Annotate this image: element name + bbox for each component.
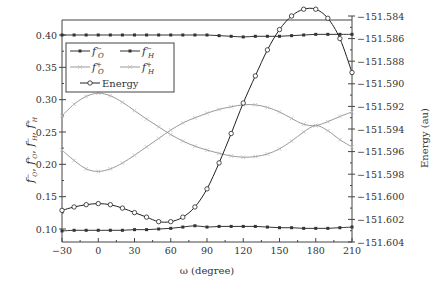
square-marker xyxy=(85,229,88,232)
y-right-tick-label: −151.586 xyxy=(357,33,404,44)
x-marker xyxy=(326,129,330,133)
x-marker xyxy=(181,139,185,143)
circle-marker xyxy=(229,131,233,135)
circle-marker xyxy=(132,210,136,214)
x-marker xyxy=(169,128,173,132)
square-marker xyxy=(326,227,329,230)
left-y-axis-label-text: f−O, f+O, f−H, f+H xyxy=(24,116,38,184)
y-left-tick-label: 0.30 xyxy=(36,94,57,105)
circle-marker xyxy=(205,187,209,191)
circle-marker xyxy=(108,203,112,207)
y-right-tick-label: −151.584 xyxy=(357,11,404,22)
square-marker xyxy=(169,34,172,37)
square-marker xyxy=(133,228,136,231)
circle-marker xyxy=(314,7,318,11)
square-marker xyxy=(302,34,305,37)
x-marker xyxy=(157,137,161,141)
square-marker xyxy=(61,229,64,232)
square-marker xyxy=(73,34,76,37)
square-marker xyxy=(218,225,221,228)
circle-marker xyxy=(241,101,245,105)
circle-marker xyxy=(84,203,88,207)
square-marker xyxy=(121,34,124,37)
square-marker xyxy=(242,35,245,38)
x-tick-label: −30 xyxy=(52,245,72,256)
circle-marker xyxy=(277,27,281,31)
legend-label: Energy xyxy=(102,78,139,89)
square-marker xyxy=(351,226,354,229)
circle-marker xyxy=(326,16,330,20)
square-marker xyxy=(230,225,233,228)
square-marker xyxy=(254,225,257,228)
circle-marker xyxy=(217,161,221,165)
square-marker xyxy=(61,34,64,37)
x-marker xyxy=(290,139,294,143)
legend: f−Of−Hf+Of+HEnergy xyxy=(66,43,174,92)
circle-marker xyxy=(181,215,185,219)
square-marker xyxy=(145,34,148,37)
y-left-tick-label: 0.10 xyxy=(36,224,57,235)
y-right-tick-label: −151.602 xyxy=(357,214,404,225)
y-left-tick-label: 0.25 xyxy=(36,127,57,138)
square-marker xyxy=(181,226,184,229)
circle-marker xyxy=(144,215,148,219)
x-marker xyxy=(121,100,125,104)
x-marker xyxy=(290,117,294,121)
square-marker xyxy=(278,226,281,229)
x-marker xyxy=(145,145,149,149)
square-marker xyxy=(73,229,76,232)
x-tick-label: 0 xyxy=(95,245,101,256)
circle-marker xyxy=(265,48,269,52)
y-right-tick-label: −151.588 xyxy=(357,56,404,67)
x-marker xyxy=(278,147,282,151)
square-marker xyxy=(242,225,245,228)
square-marker xyxy=(290,34,293,37)
series-fh xyxy=(60,103,354,173)
x-tick-label: 90 xyxy=(201,245,213,256)
y-right-tick-label: −151.600 xyxy=(357,191,404,202)
square-marker xyxy=(351,33,354,36)
square-marker xyxy=(109,34,112,37)
square-marker xyxy=(97,34,100,37)
x-marker xyxy=(302,130,306,134)
square-marker xyxy=(206,34,209,37)
circle-marker xyxy=(88,81,92,85)
circle-marker xyxy=(350,70,354,74)
right-y-axis-title: Energy (au) xyxy=(419,108,430,168)
left-y-axis: 0.100.150.200.250.300.350.40 xyxy=(36,30,66,235)
x-tick-label: 120 xyxy=(234,245,252,256)
y-right-tick-label: −151.596 xyxy=(357,146,404,157)
series-energy xyxy=(60,7,354,224)
square-marker xyxy=(169,227,172,230)
square-marker xyxy=(302,227,305,230)
series-line xyxy=(62,105,352,172)
x-tick-label: 60 xyxy=(165,245,177,256)
square-marker xyxy=(193,224,196,227)
square-marker xyxy=(157,34,160,37)
square-marker xyxy=(254,35,257,38)
square-marker xyxy=(314,227,317,230)
square-marker xyxy=(85,34,88,37)
series-fh xyxy=(61,224,354,232)
y-left-tick-label: 0.15 xyxy=(36,191,57,202)
square-marker xyxy=(193,34,196,37)
circle-marker xyxy=(169,219,173,223)
circle-marker xyxy=(338,36,342,40)
square-marker xyxy=(181,34,184,37)
x-marker xyxy=(133,153,137,157)
square-marker xyxy=(326,33,329,36)
square-marker xyxy=(97,229,100,232)
chart-canvas: −300306090120150180210 0.100.150.200.250… xyxy=(0,0,433,287)
square-marker xyxy=(314,33,317,36)
square-marker xyxy=(278,35,281,38)
circle-marker xyxy=(253,74,257,78)
y-right-tick-label: −151.604 xyxy=(357,237,404,248)
square-marker xyxy=(145,228,148,231)
circle-marker xyxy=(301,7,305,11)
circle-marker xyxy=(60,208,64,212)
y-right-tick-label: −151.592 xyxy=(357,101,404,112)
x-marker xyxy=(84,95,88,99)
x-marker xyxy=(278,110,282,114)
x-marker xyxy=(133,109,137,113)
x-axis: −300306090120150180210 xyxy=(52,238,361,256)
